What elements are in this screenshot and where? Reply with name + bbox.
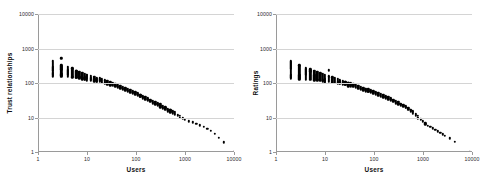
y-axis-tick (273, 118, 276, 119)
scatter-point (210, 130, 212, 132)
x-axis-tick-label: 10 (322, 156, 328, 162)
chart-panel-ratings: 110100100010000110100100010000 Users Rat… (246, 0, 491, 189)
scatter-point (223, 141, 225, 143)
x-axis-tick (276, 152, 277, 155)
x-axis-tick-label: 100 (132, 156, 141, 162)
x-axis-tick (38, 152, 39, 155)
gridline-horizontal (38, 83, 234, 84)
y-axis-tick-label: 100 (263, 80, 272, 86)
x-axis-tick (185, 152, 186, 155)
scatter-point (298, 78, 300, 80)
scatter-point (202, 126, 204, 128)
gridline-horizontal (38, 118, 234, 119)
y-axis-tick-label: 10 (28, 115, 34, 121)
scatter-point (75, 77, 77, 79)
gridline-horizontal (276, 83, 472, 84)
x-axis-title: Users (127, 166, 146, 173)
figure-container: 110100100010000110100100010000 Users Tru… (0, 0, 491, 189)
scatter-point (184, 119, 186, 121)
y-axis-tick-label: 1 (269, 149, 272, 155)
y-axis-tick (35, 83, 38, 84)
chart-panel-trust-relationships: 110100100010000110100100010000 Users Tru… (0, 0, 245, 189)
scatter-point (213, 132, 215, 134)
scatter-point (52, 75, 54, 77)
scatter-point (309, 78, 311, 80)
y-axis-tick-label: 10 (266, 115, 272, 121)
scatter-point (90, 79, 92, 81)
y-axis-title: Trust relationships (6, 53, 13, 114)
x-axis-tick (234, 152, 235, 155)
scatter-point (218, 136, 220, 138)
gridline-horizontal (276, 49, 472, 50)
y-axis-tick-label: 1000 (22, 46, 34, 52)
scatter-point (344, 84, 346, 86)
scatter-point (71, 76, 73, 78)
x-axis-tick-label: 1000 (417, 156, 429, 162)
scatter-point (199, 124, 201, 126)
x-axis-tick-label: 10 (84, 156, 90, 162)
x-axis-title: Users (365, 166, 384, 173)
scatter-point (60, 76, 62, 78)
plot-area-ratings (276, 14, 472, 152)
y-axis-tick (35, 14, 38, 15)
scatter-point (66, 75, 68, 77)
gridline-horizontal (38, 49, 234, 50)
scatter-point (313, 79, 315, 81)
x-axis-tick-label: 1000 (179, 156, 191, 162)
y-axis-tick (273, 49, 276, 50)
y-axis-tick (273, 14, 276, 15)
y-axis-tick-label: 10000 (257, 11, 272, 17)
scatter-point (444, 134, 446, 136)
scatter-point (191, 121, 193, 123)
scatter-point (290, 78, 292, 80)
scatter-point (449, 137, 451, 139)
x-axis-tick (423, 152, 424, 155)
y-axis-title: Ratings (252, 71, 259, 96)
scatter-point (454, 140, 456, 142)
y-axis-tick-label: 1000 (260, 46, 272, 52)
x-axis-tick-label: 10000 (227, 156, 242, 162)
scatter-point (60, 57, 62, 59)
y-axis-tick-label: 1 (31, 149, 34, 155)
scatter-point (188, 120, 190, 122)
x-axis-tick (472, 152, 473, 155)
scatter-point (86, 80, 88, 82)
x-axis-tick (87, 152, 88, 155)
scatter-point (328, 69, 330, 71)
x-axis-tick-label: 10000 (465, 156, 480, 162)
y-axis-tick-label: 100 (25, 80, 34, 86)
scatter-point (304, 78, 306, 80)
x-axis-tick-label: 100 (370, 156, 379, 162)
y-axis-tick (35, 118, 38, 119)
scatter-point (195, 123, 197, 125)
scatter-point (206, 128, 208, 130)
plot-area-trust-relationships (38, 14, 234, 152)
x-axis-tick (325, 152, 326, 155)
y-axis-tick (273, 83, 276, 84)
y-axis-tick-label: 10000 (19, 11, 34, 17)
gridline-horizontal (276, 14, 472, 15)
gridline-horizontal (38, 14, 234, 15)
x-axis-tick (374, 152, 375, 155)
x-axis-tick (136, 152, 137, 155)
gridline-horizontal (276, 118, 472, 119)
x-axis-tick-label: 1 (37, 156, 40, 162)
x-axis-tick-label: 1 (275, 156, 278, 162)
y-axis-tick (35, 49, 38, 50)
